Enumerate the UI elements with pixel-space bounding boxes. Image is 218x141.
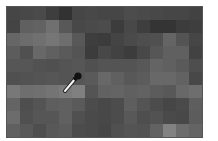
pixel-cell[interactable]: [72, 124, 85, 137]
pixel-grid[interactable]: [7, 7, 202, 137]
pixel-cell[interactable]: [46, 98, 59, 111]
pixel-cell[interactable]: [72, 46, 85, 59]
pixel-cell[interactable]: [163, 33, 176, 46]
pixel-cell[interactable]: [46, 46, 59, 59]
pixel-cell[interactable]: [46, 33, 59, 46]
pixel-cell[interactable]: [163, 85, 176, 98]
pixel-cell[interactable]: [98, 7, 111, 20]
pixel-cell[interactable]: [20, 72, 33, 85]
pixel-cell[interactable]: [85, 124, 98, 137]
pixel-cell[interactable]: [137, 33, 150, 46]
pixel-cell[interactable]: [7, 46, 20, 59]
pixel-cell[interactable]: [85, 46, 98, 59]
pixel-cell[interactable]: [33, 124, 46, 137]
pixel-cell[interactable]: [98, 33, 111, 46]
pixel-cell[interactable]: [7, 98, 20, 111]
pixel-cell[interactable]: [46, 111, 59, 124]
pixel-cell[interactable]: [72, 20, 85, 33]
pixel-cell[interactable]: [98, 124, 111, 137]
pixel-cell[interactable]: [111, 46, 124, 59]
pixel-cell[interactable]: [176, 46, 189, 59]
pixel-cell[interactable]: [176, 85, 189, 98]
pixel-cell[interactable]: [98, 111, 111, 124]
pixel-cell[interactable]: [150, 59, 163, 72]
pixel-cell[interactable]: [98, 72, 111, 85]
pixel-cell[interactable]: [124, 33, 137, 46]
pixel-cell[interactable]: [124, 85, 137, 98]
pixel-cell[interactable]: [137, 85, 150, 98]
pixel-cell[interactable]: [46, 85, 59, 98]
pixel-cell[interactable]: [7, 111, 20, 124]
pixel-cell[interactable]: [163, 7, 176, 20]
pixel-cell[interactable]: [111, 59, 124, 72]
pixel-cell[interactable]: [85, 33, 98, 46]
pixel-cell[interactable]: [59, 46, 72, 59]
pixel-cell[interactable]: [59, 59, 72, 72]
pixel-cell[interactable]: [137, 59, 150, 72]
pixel-cell[interactable]: [98, 98, 111, 111]
pixel-cell[interactable]: [150, 85, 163, 98]
pixel-cell[interactable]: [124, 111, 137, 124]
pixel-cell[interactable]: [20, 111, 33, 124]
pixel-cell[interactable]: [137, 72, 150, 85]
pixel-cell[interactable]: [20, 33, 33, 46]
pixel-cell[interactable]: [111, 72, 124, 85]
pixel-cell[interactable]: [72, 72, 85, 85]
pixel-cell[interactable]: [20, 20, 33, 33]
pixel-cell[interactable]: [176, 59, 189, 72]
pixel-cell[interactable]: [150, 33, 163, 46]
pixel-cell[interactable]: [59, 98, 72, 111]
pixel-cell[interactable]: [72, 111, 85, 124]
pixel-cell[interactable]: [20, 59, 33, 72]
pixel-cell[interactable]: [163, 124, 176, 137]
pixel-cell[interactable]: [163, 46, 176, 59]
pixel-cell[interactable]: [7, 59, 20, 72]
pixel-cell[interactable]: [72, 7, 85, 20]
pixel-cell[interactable]: [150, 7, 163, 20]
pixel-cell[interactable]: [20, 85, 33, 98]
pixel-cell[interactable]: [33, 7, 46, 20]
pixel-cell[interactable]: [111, 124, 124, 137]
pixel-cell[interactable]: [111, 98, 124, 111]
pixel-cell[interactable]: [189, 72, 202, 85]
pixel-cell[interactable]: [59, 111, 72, 124]
pixel-cell[interactable]: [20, 7, 33, 20]
pixel-cell[interactable]: [150, 20, 163, 33]
pixel-cell[interactable]: [85, 98, 98, 111]
pixel-cell[interactable]: [85, 7, 98, 20]
pixel-cell[interactable]: [111, 33, 124, 46]
pixel-cell[interactable]: [124, 46, 137, 59]
pixel-cell[interactable]: [7, 85, 20, 98]
pixel-cell[interactable]: [85, 20, 98, 33]
pixel-cell[interactable]: [176, 111, 189, 124]
pixel-cell[interactable]: [59, 20, 72, 33]
pixel-cell[interactable]: [137, 20, 150, 33]
pixel-cell[interactable]: [7, 20, 20, 33]
pixel-cell[interactable]: [124, 98, 137, 111]
pixel-cell[interactable]: [111, 7, 124, 20]
pixel-cell[interactable]: [46, 59, 59, 72]
pixel-cell[interactable]: [7, 7, 20, 20]
pixel-cell[interactable]: [163, 98, 176, 111]
pixel-cell[interactable]: [189, 111, 202, 124]
pixel-cell[interactable]: [85, 85, 98, 98]
pixel-canvas[interactable]: [6, 6, 203, 138]
pixel-cell[interactable]: [59, 85, 72, 98]
pixel-cell[interactable]: [33, 98, 46, 111]
pixel-cell[interactable]: [176, 124, 189, 137]
pixel-cell[interactable]: [59, 72, 72, 85]
pixel-cell[interactable]: [33, 85, 46, 98]
pixel-cell[interactable]: [98, 20, 111, 33]
pixel-cell[interactable]: [7, 72, 20, 85]
pixel-cell[interactable]: [46, 20, 59, 33]
pixel-cell[interactable]: [189, 59, 202, 72]
pixel-cell[interactable]: [85, 72, 98, 85]
pixel-cell[interactable]: [20, 124, 33, 137]
pixel-cell[interactable]: [176, 72, 189, 85]
pixel-cell[interactable]: [72, 98, 85, 111]
pixel-cell[interactable]: [72, 33, 85, 46]
pixel-cell[interactable]: [72, 85, 85, 98]
pixel-cell[interactable]: [163, 59, 176, 72]
pixel-cell[interactable]: [150, 124, 163, 137]
pixel-cell[interactable]: [98, 46, 111, 59]
